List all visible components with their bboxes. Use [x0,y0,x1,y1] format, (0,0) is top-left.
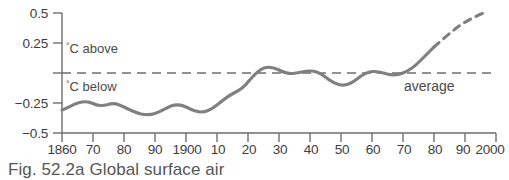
x-axis-ticks [62,133,496,142]
x-tick-label-1940: 40 [296,143,326,157]
x-tick-label-1910: 10 [203,143,233,157]
average-line-label: average [404,79,455,93]
celsius-above-label: °C above [66,42,118,55]
x-tick-label-1880: 80 [109,143,139,157]
x-tick-label-1980: 80 [420,143,450,157]
y-tick-label-0-25: 0.25 [2,37,48,51]
x-tick-label-1960: 60 [358,143,388,157]
x-tick-label-1870: 70 [78,143,108,157]
temperature-anomaly-curve [62,47,434,115]
y-tick-label-neg-0-25: −0.25 [2,97,48,111]
x-tick-label-1950: 50 [327,143,357,157]
x-tick-label-1890: 90 [140,143,170,157]
figure-caption: Fig. 52.2a Global surface air [8,160,498,180]
y-tick-label-neg-0-5: −0.5 [2,127,48,141]
celsius-below-text: C below [70,79,117,94]
celsius-above-text: C above [70,41,118,56]
x-tick-label-1920: 20 [234,143,264,157]
projected-trend-curve [434,13,484,47]
x-tick-label-1930: 30 [265,143,295,157]
celsius-below-label: °C below [66,80,117,93]
x-tick-label-1900: 1900 [167,143,207,157]
y-axis-ticks [53,13,62,133]
x-tick-label-1860: 1860 [42,143,82,157]
x-tick-label-2000: 2000 [470,143,509,157]
x-tick-label-1970: 70 [389,143,419,157]
y-tick-label-0-5: 0.5 [2,7,48,21]
